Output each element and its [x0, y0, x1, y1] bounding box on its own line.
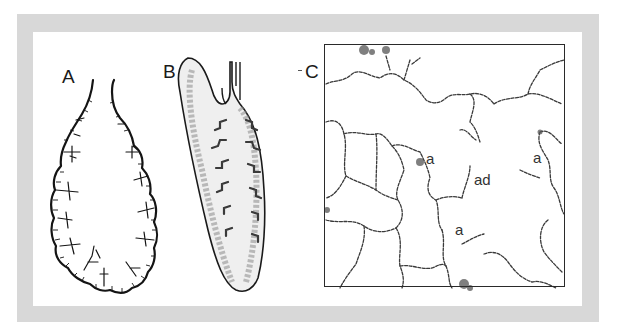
panel-a-fringe: [53, 100, 156, 292]
label-alveolus: a: [426, 151, 434, 166]
panel-c-frame: [324, 44, 565, 287]
panel-a-septa: [56, 118, 154, 286]
panel-label-a: A: [62, 67, 75, 86]
label-alveolus: a: [455, 222, 463, 237]
panel-c-tick-mark: [298, 70, 302, 71]
panel-label-b: B: [163, 62, 176, 81]
panel-label-c: C: [305, 62, 319, 81]
label-alveolus: a: [533, 150, 541, 165]
panel-a-lobule: [51, 80, 157, 293]
label-alveolar-duct: ad: [474, 172, 491, 187]
panel-b-lobule: [178, 58, 264, 291]
